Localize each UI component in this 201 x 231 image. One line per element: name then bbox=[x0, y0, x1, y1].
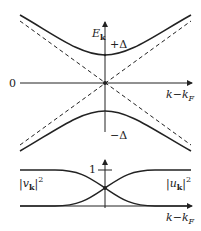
v-squared-label: |vk|2 bbox=[19, 176, 43, 191]
crossing-dot bbox=[103, 186, 107, 190]
origin-label: 0 bbox=[9, 78, 16, 89]
unit-tick-label: 1 bbox=[89, 164, 96, 175]
momentum-axis-label: k−kF bbox=[166, 89, 194, 103]
origin-dot bbox=[103, 81, 107, 85]
gap-plus-label: +Δ bbox=[110, 39, 127, 50]
gap-minus-label: −Δ bbox=[110, 130, 127, 141]
coherence-axis-label: k−kF bbox=[166, 212, 194, 226]
u-squared-label: |uk|2 bbox=[166, 176, 191, 191]
gap-top-dot bbox=[104, 54, 106, 56]
energy-axis-label: Ek bbox=[92, 28, 106, 41]
